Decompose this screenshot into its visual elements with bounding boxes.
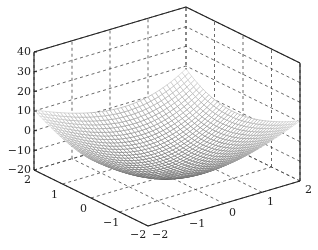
z-tick-neg10: −10	[3, 145, 31, 156]
z-tick-30: 30	[3, 66, 31, 77]
z-tick-40: 40	[3, 46, 31, 57]
y-tick-neg1: −1	[103, 217, 119, 228]
chart-area: 40 30 20 10 0 −10 −20 2 1 0 −1 −2 −2 −1 …	[0, 0, 318, 250]
x-tick-1: 1	[267, 196, 274, 207]
y-tick-2: 2	[24, 174, 31, 185]
x-tick-neg2: −2	[152, 229, 168, 240]
x-tick-0: 0	[229, 207, 236, 218]
z-tick-20: 20	[3, 86, 31, 97]
y-tick-1: 1	[51, 189, 58, 200]
y-tick-0: 0	[80, 203, 87, 214]
surface-plot-canvas	[0, 0, 318, 250]
x-tick-2: 2	[305, 184, 312, 195]
z-tick-10: 10	[3, 105, 31, 116]
x-tick-neg1: −1	[189, 218, 205, 229]
y-tick-neg2: −2	[130, 229, 146, 240]
z-tick-0: 0	[3, 125, 31, 136]
